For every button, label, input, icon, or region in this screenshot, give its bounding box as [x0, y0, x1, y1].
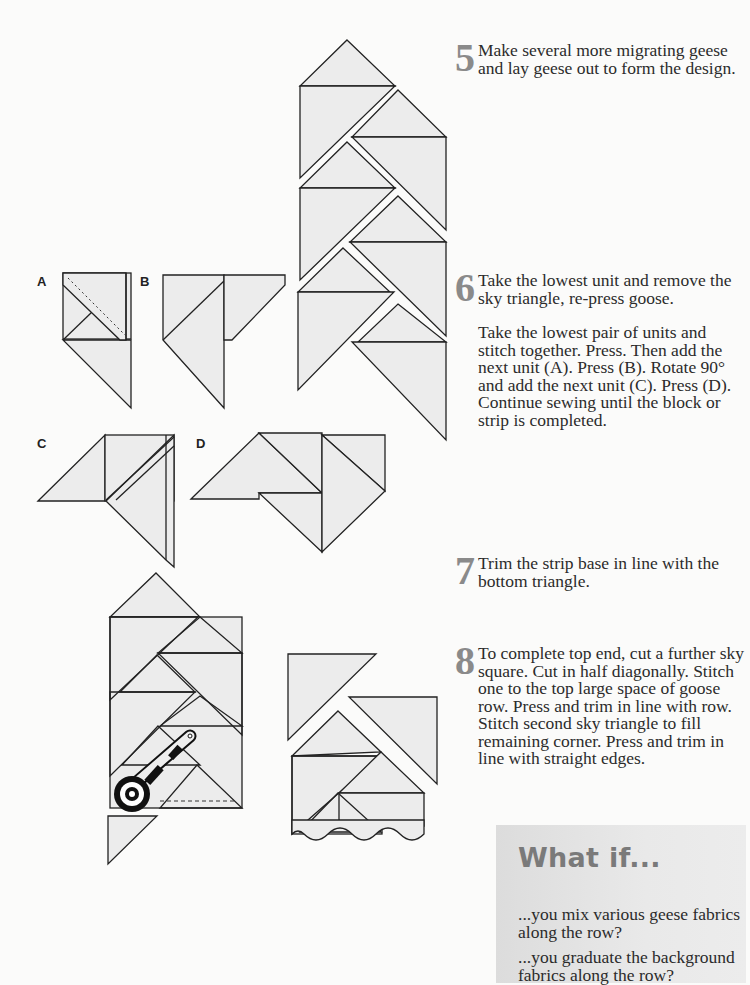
- step-text: Make several more migrating geese and la…: [478, 42, 745, 77]
- figure-label-b: B: [140, 274, 149, 289]
- step-number: 8: [455, 641, 475, 681]
- what-if-item: ...you mix various geese fabrics along t…: [518, 905, 743, 941]
- figure-a-diagram: [63, 273, 131, 408]
- top-end-diagram: [288, 654, 437, 840]
- step-7: 7 Trim the strip base in line with the b…: [455, 555, 745, 607]
- step-text: Take the lowest unit and remove the sky …: [478, 272, 745, 307]
- what-if-sidebar: What if... ...you mix various geese fabr…: [496, 825, 746, 983]
- figure-label-c: C: [37, 436, 46, 451]
- figure-c-diagram: [38, 435, 174, 567]
- figure-d-diagram: [191, 433, 385, 552]
- figure-b-diagram: [163, 275, 285, 408]
- step-text: Trim the strip base in line with the bot…: [478, 555, 745, 590]
- step-number: 7: [455, 551, 475, 591]
- geese-layout-diagram: [298, 40, 446, 440]
- step-text: Take the lowest pair of units and stitch…: [478, 324, 745, 429]
- figure-label-a: A: [37, 274, 46, 289]
- step-8: 8 To complete top end, cut a further sky…: [455, 645, 745, 785]
- trim-strip-diagram: [108, 573, 242, 864]
- step-text: To complete top end, cut a further sky s…: [478, 645, 745, 768]
- step-6: 6 Take the lowest unit and remove the sk…: [455, 272, 745, 446]
- step-number: 6: [455, 268, 475, 308]
- figure-label-d: D: [196, 436, 205, 451]
- step-number: 5: [455, 38, 475, 78]
- what-if-item: ...you graduate the background fabrics a…: [518, 948, 743, 984]
- what-if-title: What if...: [518, 842, 661, 873]
- step-5: 5 Make several more migrating geese and …: [455, 42, 745, 94]
